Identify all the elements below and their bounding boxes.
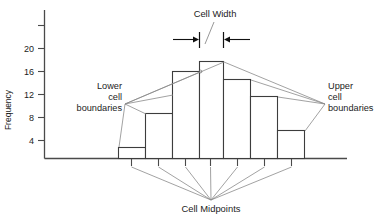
bar-5	[224, 80, 251, 159]
y-axis-title: Frequency	[3, 89, 13, 130]
midpoint-leader-2	[159, 167, 212, 200]
bar-2	[146, 114, 173, 159]
y-tick-label-4: 4	[29, 136, 34, 146]
midpoint-leader-7	[211, 167, 292, 200]
histogram-svg: 20 16 12 8 4 Frequency	[0, 0, 390, 220]
y-tick-label-16: 16	[24, 67, 34, 77]
histogram-figure: 20 16 12 8 4 Frequency	[0, 0, 390, 220]
lower-boundaries-line-2: cell	[108, 92, 122, 102]
upper-leader-bar-6	[278, 97, 325, 104]
y-axis-group: 20 16 12 8 4 Frequency	[3, 10, 45, 159]
cell-width-leader	[205, 22, 214, 44]
x-axis-group	[45, 159, 348, 167]
bar-1	[119, 148, 146, 159]
cell-midpoints-label: Cell Midpoints	[182, 203, 241, 214]
cell-width-left-arrowhead	[193, 37, 199, 43]
lower-leader-bar-3	[125, 95, 173, 104]
bar-7	[278, 131, 305, 159]
cell-width-label: Cell Width	[194, 8, 237, 19]
midpoint-leader-6	[211, 167, 265, 200]
cell-midpoints-callout: Cell Midpoints	[132, 167, 292, 214]
upper-boundaries-line-1: Upper	[328, 81, 353, 91]
bar-6	[251, 97, 278, 159]
lower-boundaries-line-1: Lower	[97, 81, 122, 91]
bars-group	[119, 62, 305, 159]
bar-4	[200, 62, 224, 159]
midpoint-leader-5	[211, 167, 238, 200]
lower-boundaries-line-3: boundaries	[77, 103, 123, 113]
y-tick-label-12: 12	[24, 90, 34, 100]
y-tick-label-8: 8	[29, 113, 34, 123]
cell-width-dimension: Cell Width	[173, 8, 250, 48]
midpoint-leader-4	[211, 167, 212, 200]
midpoint-leader-1	[132, 167, 212, 200]
lower-leader-bar-2	[125, 104, 146, 114]
upper-leader-bar-7	[305, 104, 325, 131]
bar-3	[173, 72, 200, 159]
cell-width-right-arrowhead	[224, 37, 230, 43]
upper-boundaries-line-3: boundaries	[328, 103, 374, 113]
y-tick-label-20: 20	[24, 44, 34, 54]
upper-boundaries-line-2: cell	[328, 92, 342, 102]
